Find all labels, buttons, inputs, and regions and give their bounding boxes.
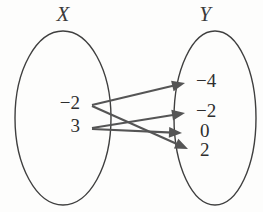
domain-set-ellipse [15, 31, 111, 205]
mapping-diagram-canvas: X Y −2 3 −4 −2 0 2 [0, 0, 263, 212]
arrow-head-icon-2 [171, 110, 185, 121]
domain-element-1: 3 [71, 115, 81, 136]
codomain-element-2: 0 [200, 120, 210, 141]
codomain-element-3: 2 [200, 139, 210, 160]
codomain-element-0: −4 [196, 70, 217, 91]
codomain-element-1: −2 [196, 100, 216, 121]
mapping-arrow-line-3 [92, 129, 173, 133]
codomain-set-title: Y [199, 2, 213, 26]
mapping-arrow-line-0 [92, 85, 176, 105]
arrow-head-icon-0 [171, 81, 185, 92]
mapping-diagram: X Y −2 3 −4 −2 0 2 [0, 0, 263, 212]
domain-element-0: −2 [60, 92, 80, 113]
arrow-group [92, 81, 188, 149]
domain-set-title: X [56, 2, 71, 26]
